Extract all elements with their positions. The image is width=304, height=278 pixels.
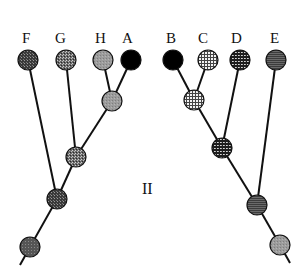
node-BCD	[212, 138, 232, 158]
edge-D	[222, 60, 240, 148]
label-B: B	[166, 30, 176, 46]
node-D	[230, 50, 250, 70]
node-E	[266, 50, 286, 70]
node-FGHA	[47, 189, 67, 209]
label-H: H	[95, 30, 106, 46]
node-BC	[184, 90, 204, 110]
node-C	[198, 50, 218, 70]
node-HA	[102, 91, 122, 111]
panel-label: II	[142, 180, 153, 197]
node-G	[56, 50, 76, 70]
label-F: F	[22, 30, 30, 46]
left-tree-nodes	[18, 50, 141, 257]
node-GHA	[66, 147, 86, 167]
edge-G	[66, 60, 76, 157]
node-H	[93, 50, 113, 70]
node-BCDE	[247, 195, 267, 215]
leaf-labels: F G H A B C D E	[22, 30, 279, 46]
edge-E	[257, 60, 276, 205]
node-F	[18, 50, 38, 70]
right-tree-nodes	[163, 50, 290, 255]
label-C: C	[198, 30, 208, 46]
node-A	[121, 50, 141, 70]
node-root-right	[270, 235, 290, 255]
label-E: E	[270, 30, 279, 46]
label-D: D	[231, 30, 242, 46]
node-root-left	[20, 237, 40, 257]
edge-F	[28, 60, 57, 199]
node-B	[163, 50, 183, 70]
tree-diagram: F G H A B C D E II	[0, 0, 304, 278]
label-A: A	[122, 30, 133, 46]
label-G: G	[55, 30, 66, 46]
